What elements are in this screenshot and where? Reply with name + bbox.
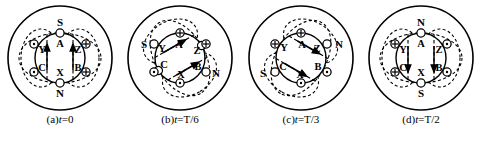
coil-label-Z: Z [74,44,81,55]
coil-label-B: B [314,61,321,72]
pole-slot-bottom [56,79,64,87]
coil-marker-A-cross [297,29,305,37]
coil-label-C: C [38,62,46,73]
panel-a-svg: S N A X Y B C Z [0,0,120,118]
coil-label-A: A [298,39,306,50]
rotating-field-figure: S N A X Y B C Z (a)t=0 [0,0,481,147]
pole-label-top: S [57,16,63,28]
caption-eq: =T/3 [298,113,319,125]
coil-marker-Y-dot [30,40,38,48]
panel-b: S N A X Y B C Z (b)t=T/6 [120,0,240,147]
panel-d-caption: (d)t=T/2 [361,113,481,125]
caption-prefix: (c) [283,113,295,125]
panel-c-svg: N S A X Y B C Z [241,0,361,118]
panel-c-drawing: N S A X Y B C Z [241,0,361,118]
coil-label-B: B [194,61,201,72]
coil-marker-X-dot [176,79,184,87]
coil-label-X: X [56,67,64,78]
pole-label-bottom: S [260,67,266,79]
panel-a-drawing: S N A X Y B C Z [0,0,120,118]
panel-d-svg: N S A X Y B C Z [361,0,481,118]
panel-d-drawing: N S A X Y B C Z [361,0,481,118]
coil-label-X: X [296,69,304,80]
caption-prefix: (a) [47,113,59,125]
coil-marker-Z-dot [443,40,451,48]
coil-label-X: X [177,69,185,80]
coil-marker-A-cross [176,29,184,37]
pole-label-bottom: N [56,87,64,99]
pole-label-top: N [335,38,343,50]
pole-slot-Z-blank [323,40,331,48]
coil-label-C: C [279,61,287,72]
pole-label-top: S [141,38,147,50]
pole-slot-B-blank [202,68,210,76]
coil-label-A: A [56,38,64,49]
pole-label-top: N [417,16,425,28]
panel-c: N S A X Y B C Z (c)t=T/3 [241,0,361,147]
coil-marker-B-cross [82,68,90,76]
caption-eq: =T/6 [177,113,198,125]
coil-marker-C-dot [150,68,158,76]
coil-marker-B-dot [443,68,451,76]
panel-b-drawing: S N A X Y B C Z [120,0,240,118]
coil-label-A: A [175,39,183,50]
pole-slot-C-blank [271,68,279,76]
pole-label-bottom: N [212,67,220,79]
pole-label-bottom: S [418,87,424,99]
pole-slot-top [56,29,64,37]
panel-c-caption: (c)t=T/3 [241,113,361,125]
pole-slot-Y-blank [150,40,158,48]
coil-label-Z: Z [435,44,442,55]
coil-label-Z: Z [313,43,320,54]
coil-label-Y: Y [158,43,166,54]
panel-a: S N A X Y B C Z (a)t=0 [0,0,120,147]
coil-label-C: C [160,59,168,70]
coil-label-X: X [417,67,425,78]
coil-label-C: C [399,62,407,73]
caption-eq: =0 [62,113,74,125]
coil-marker-Z-cross [82,40,90,48]
coil-marker-C-dot [30,68,38,76]
coil-marker-B-dot [323,68,331,76]
caption-prefix: (b) [161,113,174,125]
pole-slot-top [417,29,425,37]
coil-marker-C-cross [391,68,399,76]
caption-prefix: (d) [402,113,415,125]
panel-b-caption: (b)t=T/6 [120,113,240,125]
coil-marker-Z-cross [202,40,210,48]
coil-label-Y: Y [38,44,46,55]
coil-label-Y: Y [399,44,407,55]
coil-label-B: B [435,62,442,73]
panel-a-caption: (a)t=0 [0,113,120,125]
panel-b-svg: S N A X Y B C Z [120,0,240,118]
coil-marker-X-dot [297,79,305,87]
coil-label-A: A [417,38,425,49]
coil-marker-Y-cross [391,40,399,48]
pole-slot-bottom [417,79,425,87]
coil-label-B: B [74,62,81,73]
coil-label-Y: Y [280,42,288,53]
coil-label-Z: Z [193,45,200,56]
panel-d: N S A X Y B C Z (d)t=T/2 [361,0,481,147]
coil-marker-Y-cross [271,40,279,48]
caption-eq: =T/2 [418,113,439,125]
